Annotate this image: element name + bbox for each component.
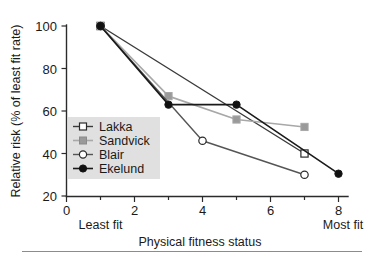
legend-label-ekelund: Ekelund xyxy=(99,162,144,176)
series-sandvick xyxy=(97,22,308,130)
legend-marker-filled-circle-icon xyxy=(79,165,86,172)
chart-figure: 100 80 60 40 20 0 2 4 6 8 Least fit Most… xyxy=(0,0,384,257)
datapoint-ekelund-x3 xyxy=(165,101,172,108)
most-fit-annotation: Most fit xyxy=(323,218,364,232)
datapoint-sandvick-x7 xyxy=(301,123,308,130)
y-ticklabel-40: 40 xyxy=(43,147,57,162)
y-ticklabel-100: 100 xyxy=(35,19,57,34)
datapoint-ekelund-x8 xyxy=(335,170,342,177)
legend-marker-filled-square-icon xyxy=(80,137,87,144)
line-chart-canvas: 100 80 60 40 20 0 2 4 6 8 Least fit Most… xyxy=(0,0,384,257)
x-ticklabel-4: 4 xyxy=(199,203,206,218)
datapoint-sandvick-x5 xyxy=(233,116,240,123)
series-line-sandvick xyxy=(101,26,305,127)
legend-marker-open-square-icon xyxy=(80,123,87,130)
legend-label-blair: Blair xyxy=(99,148,124,162)
legend-label-sandvick: Sandvick xyxy=(99,134,150,148)
y-axis-title: Relative risk (% of least fit rate) xyxy=(9,25,23,198)
datapoint-blair-x7 xyxy=(301,171,308,178)
x-ticklabel-0: 0 xyxy=(63,203,70,218)
legend-marker-open-circle-icon xyxy=(79,151,86,158)
y-ticklabel-20: 20 xyxy=(43,189,57,204)
x-ticklabel-8: 8 xyxy=(335,203,342,218)
y-ticklabel-60: 60 xyxy=(43,104,57,119)
y-ticklabel-80: 80 xyxy=(43,62,57,77)
x-ticklabel-6: 6 xyxy=(267,203,274,218)
x-axis-ticks: 0 2 4 6 8 xyxy=(63,197,342,219)
x-ticklabel-2: 2 xyxy=(131,203,138,218)
chart-legend: Lakka Sandvick Blair Ekelund xyxy=(68,117,160,179)
datapoint-blair-x4 xyxy=(199,137,206,144)
y-axis-ticks: 100 80 60 40 20 xyxy=(35,19,66,204)
legend-label-lakka: Lakka xyxy=(99,120,132,134)
datapoint-ekelund-x5 xyxy=(233,101,240,108)
x-axis-title: Physical fitness status xyxy=(139,235,262,249)
datapoint-ekelund-x1 xyxy=(97,22,104,29)
least-fit-annotation: Least fit xyxy=(79,218,123,232)
